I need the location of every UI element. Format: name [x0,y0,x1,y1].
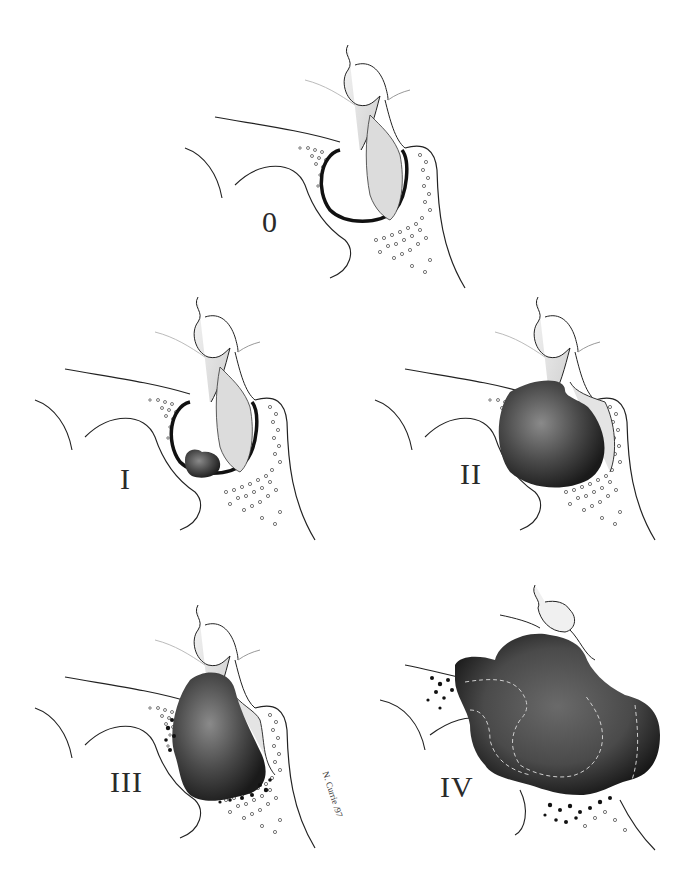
panel-stage-IV: IV [370,560,680,860]
tumor-diffuse [455,634,660,795]
sella-illustration-stage-III [30,570,350,840]
panel-stage-III: III N. Currie /97 [30,570,350,840]
stage-label: II [460,457,482,491]
panel-stage-II: II [370,282,670,542]
stage-label: 0 [262,205,278,239]
panel-stage-0: 0 [180,30,480,300]
tumor-invasive [172,673,265,801]
stage-label: IV [440,770,474,804]
sella-illustration-stage-0 [180,30,480,300]
sella-illustration-stage-I [30,282,330,542]
panel-stage-I: I [30,282,330,542]
sella-illustration-stage-II [370,282,670,542]
stage-label: III [110,765,143,799]
stage-label: I [120,462,131,496]
sella-illustration-stage-IV [370,560,680,860]
